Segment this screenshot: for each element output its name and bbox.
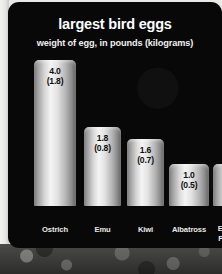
chart-panel: largest bird eggs weight of egg, in poun… — [8, 2, 222, 248]
category-label-line1: Kiwi — [138, 225, 153, 234]
bar-value-kilograms: (0.5) — [169, 180, 209, 190]
bar-value-emu: 1.8 (0.8) — [84, 133, 121, 153]
category-label-emperor-penguin: Emperor Penguin — [211, 224, 222, 243]
bar-value-kilograms: (0.5) — [213, 180, 222, 190]
category-label-albatross: Albatross — [166, 225, 212, 235]
bar-value-kilograms: (1.8) — [34, 76, 76, 86]
bar-value-albatross: 1.0 (0.5) — [169, 170, 209, 190]
category-label-line1: Emperor — [218, 224, 222, 233]
category-label-line1: Albatross — [172, 225, 206, 234]
bar-emu: 1.8 (0.8) — [84, 127, 121, 206]
category-label-kiwi: Kiwi — [127, 225, 164, 235]
bar-value-pounds: 1.0 — [183, 170, 194, 180]
page-bottom-texture — [0, 244, 222, 274]
bar-kiwi: 1.6 (0.7) — [127, 139, 164, 206]
bar-value-pounds: 1.8 — [97, 133, 108, 143]
bar-value-ostrich: 4.0 (1.8) — [34, 66, 76, 86]
plot-area: 4.0 (1.8) Ostrich 1.8 (0.8) Emu 1.6 — [8, 2, 222, 248]
bar-emperor-penguin: 1.0 (0.5) — [213, 164, 222, 206]
bar-value-kiwi: 1.6 (0.7) — [127, 145, 164, 165]
bar-value-pounds: 4.0 — [49, 66, 60, 76]
category-label-line1: Ostrich — [42, 225, 68, 234]
bar-value-pounds: 1.6 — [140, 145, 151, 155]
category-label-line2: Penguin — [218, 234, 222, 243]
bar-ostrich: 4.0 (1.8) — [34, 60, 76, 206]
category-label-ostrich: Ostrich — [34, 225, 76, 235]
bar-albatross: 1.0 (0.5) — [169, 164, 209, 206]
bar-value-emperor-penguin: 1.0 (0.5) — [213, 170, 222, 190]
bar-value-kilograms: (0.8) — [84, 143, 121, 153]
chart-screenshot: largest bird eggs weight of egg, in poun… — [0, 0, 222, 274]
bar-value-kilograms: (0.7) — [127, 155, 164, 165]
category-label-line1: Emu — [94, 225, 110, 234]
category-label-emu: Emu — [84, 225, 121, 235]
